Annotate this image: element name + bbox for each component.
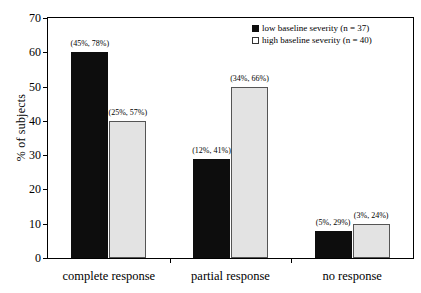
y-axis-title: % of subjects bbox=[14, 63, 29, 193]
y-axis-tick bbox=[43, 224, 48, 225]
y-axis-tick-label: 40 bbox=[29, 115, 41, 127]
bar-value-label: (34%, 66%) bbox=[230, 75, 269, 83]
bar-high-0 bbox=[109, 121, 146, 258]
plot-area: 010203040506070(45%, 78%)(25%, 57%)(12%,… bbox=[48, 18, 413, 258]
bar-high-1 bbox=[231, 87, 268, 258]
chart-legend: low baseline severity (n = 37) high base… bbox=[252, 22, 372, 46]
y-axis-tick bbox=[43, 52, 48, 53]
x-axis-category-label: complete response bbox=[62, 270, 155, 283]
y-axis-tick-label: 20 bbox=[29, 183, 41, 195]
bar-value-label: (5%, 29%) bbox=[316, 219, 351, 227]
y-axis-tick-label: 10 bbox=[29, 218, 41, 230]
x-axis-category-label: no response bbox=[322, 270, 381, 283]
bar-value-label: (3%, 24%) bbox=[354, 212, 389, 220]
y-axis-tick bbox=[43, 87, 48, 88]
bar-high-2 bbox=[353, 224, 390, 258]
y-axis-tick bbox=[43, 189, 48, 190]
bar-low-2 bbox=[315, 231, 352, 258]
legend-swatch-icon-high bbox=[252, 37, 259, 44]
bar-low-1 bbox=[193, 159, 230, 258]
legend-label-high: high baseline severity (n = 40) bbox=[262, 34, 372, 46]
bar-chart: % of subjects 010203040506070(45%, 78%)(… bbox=[0, 0, 421, 293]
y-axis-tick-label: 30 bbox=[29, 149, 41, 161]
legend-item-low-baseline: low baseline severity (n = 37) bbox=[252, 22, 372, 34]
x-axis-separator-tick bbox=[291, 258, 292, 263]
plot-frame: 010203040506070(45%, 78%)(25%, 57%)(12%,… bbox=[47, 17, 414, 259]
bar-value-label: (25%, 57%) bbox=[109, 109, 148, 117]
bar-low-0 bbox=[71, 52, 108, 258]
bar-value-label: (12%, 41%) bbox=[192, 147, 231, 155]
y-axis-tick bbox=[43, 155, 48, 156]
y-axis-tick-label: 60 bbox=[29, 46, 41, 58]
x-axis-separator-tick bbox=[170, 258, 171, 263]
x-axis-category-label: partial response bbox=[191, 270, 270, 283]
y-axis-tick-label: 0 bbox=[35, 252, 41, 264]
legend-label-low: low baseline severity (n = 37) bbox=[262, 22, 369, 34]
y-axis-tick-label: 50 bbox=[29, 81, 41, 93]
bar-value-label: (45%, 78%) bbox=[71, 40, 110, 48]
legend-item-high-baseline: high baseline severity (n = 40) bbox=[252, 34, 372, 46]
y-axis-tick bbox=[43, 258, 48, 259]
legend-swatch-icon-low bbox=[252, 25, 259, 32]
y-axis-tick bbox=[43, 121, 48, 122]
y-axis-tick bbox=[43, 18, 48, 19]
y-axis-tick-label: 70 bbox=[29, 12, 41, 24]
